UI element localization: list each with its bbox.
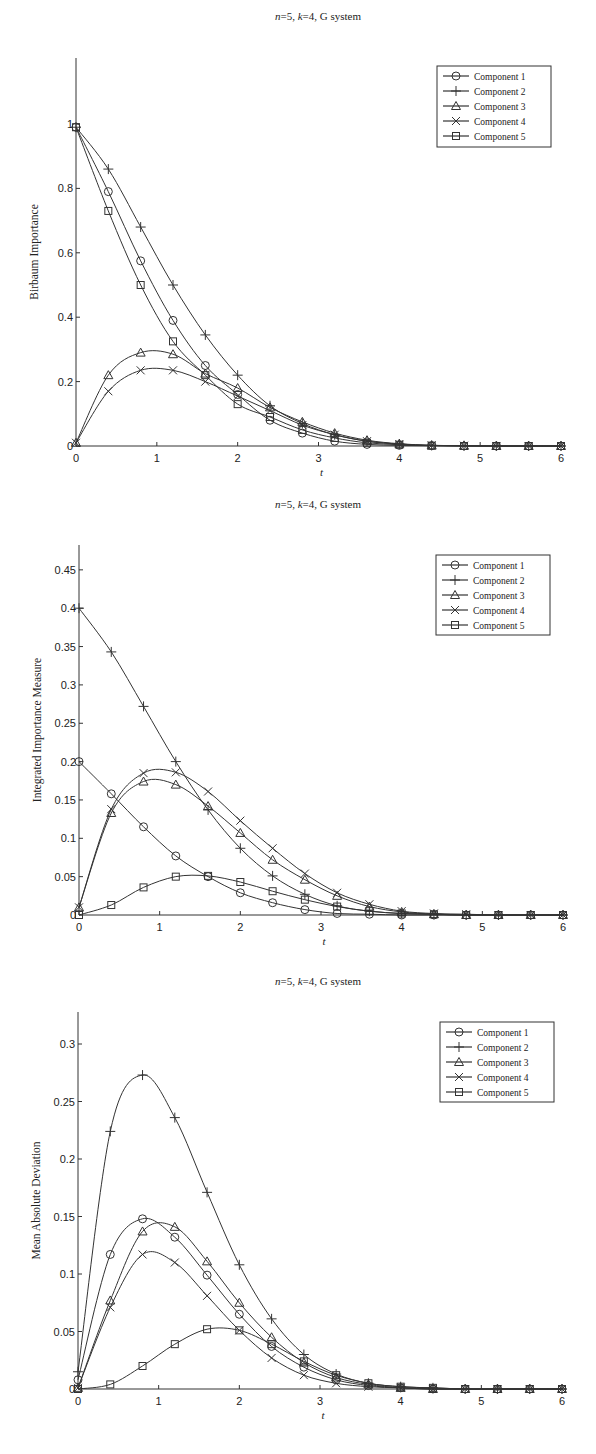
- series-component-5: [75, 1326, 566, 1393]
- legend-label: Component 5: [474, 132, 526, 142]
- series-component-5: [73, 124, 565, 450]
- x-tick-label: 5: [478, 1395, 484, 1407]
- legend-label: Component 2: [477, 1043, 529, 1053]
- plus-marker-icon: [139, 701, 149, 711]
- plus-marker-icon: [268, 871, 278, 881]
- x-tick-label: 3: [317, 1395, 323, 1407]
- chart-title: n=5, k=4, G system: [275, 498, 362, 510]
- x-tick-label: 1: [156, 1395, 162, 1407]
- legend: Component 1Component 2Component 3Compone…: [436, 555, 550, 635]
- legend-item-component-5: Component 5: [442, 621, 525, 631]
- legend-label: Component 4: [473, 606, 525, 616]
- y-tick-label: 0.6: [58, 247, 73, 259]
- legend-label: Component 3: [473, 591, 525, 601]
- legend-label: Component 3: [474, 102, 526, 112]
- x-axis-label: t: [321, 1409, 325, 1421]
- y-tick-label: 0.2: [60, 1153, 75, 1165]
- x-marker-icon: [300, 1371, 308, 1379]
- series-component-3: [74, 1222, 567, 1392]
- chart-2: n=5, k=4, G system012345600.050.10.150.2…: [31, 498, 568, 947]
- y-tick-label: 0.8: [58, 182, 73, 194]
- y-tick-label: 0.2: [61, 756, 76, 768]
- x-tick-label: 4: [399, 921, 405, 933]
- x-tick-label: 1: [154, 452, 160, 464]
- x-tick-label: 0: [76, 921, 82, 933]
- y-axis-label: Birbaum Importance: [28, 204, 41, 299]
- y-tick-label: 0.05: [54, 1326, 75, 1338]
- legend-label: Component 1: [473, 561, 525, 571]
- x-tick-label: 0: [73, 452, 79, 464]
- legend-item-component-5: Component 5: [446, 1088, 529, 1098]
- y-tick-label: 0.15: [54, 1211, 75, 1223]
- x-tick-label: 6: [559, 1395, 565, 1407]
- y-tick-label: 0.15: [55, 794, 76, 806]
- chart-3: n=5, k=4, G system012345600.050.10.150.2…: [30, 975, 567, 1421]
- legend-item-component-3: Component 3: [446, 1058, 529, 1068]
- x-axis-label: t: [320, 466, 324, 478]
- y-tick-label: 0.45: [55, 564, 76, 576]
- x-marker-icon: [236, 817, 244, 825]
- plus-marker-icon: [202, 1187, 212, 1197]
- y-tick-label: 0.2: [58, 376, 73, 388]
- x-marker-icon: [172, 768, 180, 776]
- legend: Component 1Component 2Component 3Compone…: [437, 66, 551, 147]
- x-marker-icon: [104, 387, 112, 395]
- plus-marker-icon: [73, 1367, 83, 1377]
- y-tick-label: 0.3: [60, 1038, 75, 1050]
- series-component-1: [72, 123, 565, 450]
- x-tick-label: 3: [315, 452, 321, 464]
- series-component-2: [73, 1070, 567, 1394]
- x-marker-icon: [301, 870, 309, 878]
- x-tick-label: 5: [479, 921, 485, 933]
- y-tick-label: 0.3: [61, 679, 76, 691]
- figure-canvas: n=5, k=4, G system012345600.20.40.60.81t…: [0, 0, 596, 1454]
- y-tick-label: 0.4: [61, 602, 76, 614]
- x-tick-label: 2: [235, 452, 241, 464]
- legend-item-component-3: Component 3: [442, 591, 525, 601]
- x-marker-icon: [107, 805, 115, 813]
- plus-marker-icon: [234, 1260, 244, 1270]
- y-axis-label: Integrated Importance Measure: [31, 658, 44, 802]
- y-tick-label: 0.35: [55, 641, 76, 653]
- legend: Component 1Component 2Component 3Compone…: [440, 1022, 554, 1102]
- x-marker-icon: [171, 1259, 179, 1267]
- plus-marker-icon: [170, 1113, 180, 1123]
- y-tick-label: 0.25: [54, 1096, 75, 1108]
- y-tick-label: 0.25: [55, 717, 76, 729]
- chart-title: n=5, k=4, G system: [275, 10, 362, 22]
- plus-marker-icon: [136, 222, 146, 232]
- x-tick-label: 2: [236, 1395, 242, 1407]
- x-tick-label: 0: [75, 1395, 81, 1407]
- legend-label: Component 4: [474, 117, 526, 127]
- plus-marker-icon: [105, 1126, 115, 1136]
- y-tick-label: 0.1: [61, 832, 76, 844]
- x-tick-label: 4: [398, 1395, 404, 1407]
- y-tick-label: 0.1: [60, 1268, 75, 1280]
- y-tick-label: 0.4: [58, 311, 73, 323]
- plus-marker-icon: [103, 164, 113, 174]
- legend-label: Component 5: [477, 1088, 529, 1098]
- x-marker-icon: [268, 1354, 276, 1362]
- x-marker-icon: [139, 1250, 147, 1258]
- series-component-3: [75, 777, 568, 918]
- legend-label: Component 4: [477, 1073, 529, 1083]
- x-tick-label: 6: [558, 452, 564, 464]
- plus-marker-icon: [106, 647, 116, 657]
- x-tick-label: 4: [396, 452, 402, 464]
- plus-marker-icon: [138, 1070, 148, 1080]
- legend-label: Component 1: [474, 72, 526, 82]
- x-tick-label: 1: [157, 921, 163, 933]
- series-component-4: [75, 768, 567, 919]
- x-tick-label: 2: [237, 921, 243, 933]
- y-axis-label: Mean Absolute Deviation: [30, 1141, 42, 1259]
- series-component-2: [71, 122, 566, 451]
- series-component-2: [74, 603, 568, 920]
- legend-label: Component 3: [477, 1058, 529, 1068]
- legend-label: Component 2: [473, 576, 525, 586]
- y-tick-label: 0.05: [55, 871, 76, 883]
- plus-marker-icon: [200, 330, 210, 340]
- plus-marker-icon: [171, 757, 181, 767]
- x-tick-label: 3: [318, 921, 324, 933]
- plus-marker-icon: [168, 280, 178, 290]
- series-component-1: [75, 758, 567, 919]
